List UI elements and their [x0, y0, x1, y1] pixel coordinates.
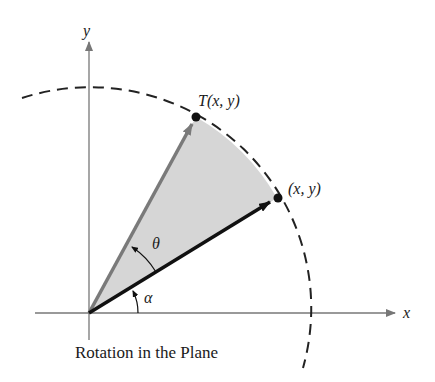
theta-label: θ [152, 235, 160, 252]
alpha-label: α [144, 289, 153, 306]
y-axis-label: y [81, 22, 91, 40]
x-axis-label: x [402, 304, 410, 321]
rotated-point [192, 113, 201, 122]
rotated-point-label: T(x, y) [198, 92, 240, 110]
rotation-diagram: y x T(x, y) (x, y) θ α Rotation in the P… [0, 0, 435, 382]
caption: Rotation in the Plane [75, 343, 218, 362]
original-point-label: (x, y) [288, 180, 321, 198]
alpha-arc [133, 291, 138, 313]
original-point [274, 194, 283, 203]
